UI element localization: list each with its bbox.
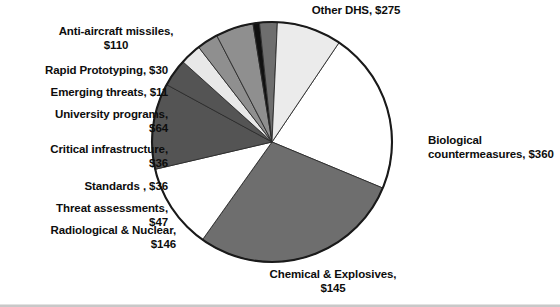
pie-slices-group: [152, 22, 392, 262]
slice-label-standards: Standards , $36: [24, 180, 168, 194]
slice-label-other-dhs: Other DHS, $275: [256, 4, 456, 18]
slice-label-biological-countermeasures: Biological countermeasures, $360: [428, 134, 558, 161]
slice-label-anti-aircraft-missiles: Anti-aircraft missiles, $110: [36, 25, 196, 52]
slice-label-threat-assessments: Threat assessments, $47: [22, 202, 168, 229]
slice-label-rapid-prototyping: Rapid Prototyping, $30: [6, 64, 168, 78]
slice-label-chemical-explosives: Chemical & Explosives, $145: [248, 268, 418, 295]
pie-chart-figure: Other DHS, $275 Biological countermeasur…: [0, 0, 560, 307]
slice-label-emerging-threats: Emerging threats, $11: [8, 86, 168, 100]
slice-label-university-programs: University programs, $64: [14, 108, 168, 135]
slice-label-critical-infrastructure: Critical infrastructure, $36: [10, 143, 168, 170]
